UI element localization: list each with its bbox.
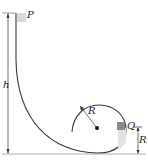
diagram-drawing [0, 0, 148, 162]
label-q: Q [127, 121, 135, 131]
block-q [117, 122, 125, 130]
arrow-down-icon [137, 150, 140, 154]
arrow-up-icon [137, 127, 140, 131]
loop-track-diagram: P h R Q R [0, 0, 148, 162]
block-p [17, 13, 26, 22]
arrow-down-icon [7, 149, 10, 154]
label-h: h [3, 80, 9, 90]
label-p: P [27, 10, 34, 20]
label-loop-radius: R [88, 106, 96, 116]
arrow-up-icon [7, 13, 10, 18]
track-curve [16, 13, 126, 153]
shade-q [118, 128, 126, 150]
label-q-height: R [139, 135, 147, 145]
